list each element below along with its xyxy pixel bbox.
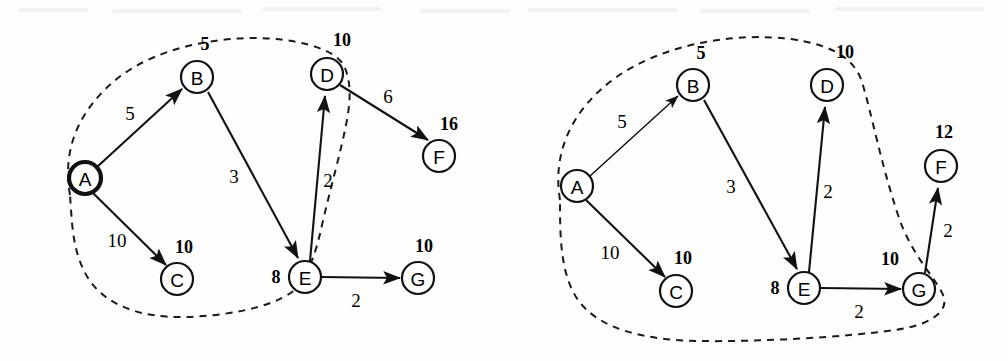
left-panel: 5 10 3 2 6 2 A B C [68,30,458,317]
edge-weight-A-C: 10 [601,242,620,263]
right-panel: 5 10 3 2 2 2 A B C [558,37,957,341]
right-visited-set-boundary [558,37,944,341]
edge-weight-A-C: 10 [108,230,127,251]
node-B-label: B [687,76,700,97]
node-D-label: D [820,76,834,97]
distance-label-B: 5 [201,34,210,54]
node-G-label: G [912,280,927,301]
node-B[interactable]: B [181,61,213,93]
node-C-label: C [669,282,683,303]
node-D[interactable]: D [311,58,343,90]
node-F-label: F [935,157,947,178]
node-D-label: D [320,65,334,86]
edge-weight-E-D: 2 [823,181,833,202]
edge-weight-B-E: 3 [229,166,239,187]
node-C-label: C [170,270,184,291]
distance-label-D: 10 [836,42,854,62]
right-nodes: A B C D E [561,69,957,307]
node-E-label: E [798,279,811,300]
graph-canvas: 5 10 3 2 6 2 A B C [0,0,1008,361]
node-A[interactable]: A [69,162,101,194]
node-A-label: A [79,169,92,190]
node-F-label: F [433,147,445,168]
node-C[interactable]: C [660,275,692,307]
node-B[interactable]: B [677,69,709,101]
distance-label-G: 10 [415,236,433,256]
distance-label-C: 10 [674,248,692,268]
node-F[interactable]: F [925,150,957,182]
edge-weight-E-G: 2 [351,290,361,311]
edge-weight-B-E: 3 [726,176,736,197]
left-nodes: A B C D E [69,58,455,295]
edge-B-E [704,100,797,269]
distance-label-D: 10 [333,30,351,50]
edge-E-G [321,277,400,278]
node-G-label: G [411,269,426,290]
distance-label-G: 10 [881,249,899,269]
node-D[interactable]: D [811,69,843,101]
edge-A-B [590,96,678,176]
node-B-label: B [191,68,204,89]
edge-weight-D-F: 6 [383,86,393,107]
node-A[interactable]: A [561,170,593,202]
figure-container: 5 10 3 2 6 2 A B C [0,0,1008,361]
distance-label-F: 16 [440,114,458,134]
node-G[interactable]: G [903,273,935,305]
node-G[interactable]: G [402,262,434,294]
edge-A-C [93,193,166,265]
node-E[interactable]: E [788,272,820,304]
distance-label-E: 8 [272,267,281,287]
edge-weight-E-D: 2 [323,170,333,191]
edge-B-E [208,92,298,258]
node-E[interactable]: E [289,261,321,293]
left-edges [93,85,428,278]
node-F[interactable]: F [423,140,455,172]
distance-label-C: 10 [175,237,193,257]
edge-G-F [925,188,938,273]
edge-A-C [586,200,665,277]
edge-weight-A-B: 5 [617,111,627,132]
edge-A-B [97,89,182,167]
edge-weight-A-B: 5 [125,103,135,124]
edge-weight-E-G: 2 [854,301,864,322]
node-A-label: A [571,177,584,198]
scan-artifacts [18,7,984,13]
distance-label-E: 8 [771,278,780,298]
distance-label-F: 12 [935,122,953,142]
node-C[interactable]: C [161,263,193,295]
edge-weight-G-F: 2 [943,220,953,241]
distance-label-B: 5 [697,43,706,63]
node-E-label: E [299,268,312,289]
edge-E-G [821,288,901,289]
